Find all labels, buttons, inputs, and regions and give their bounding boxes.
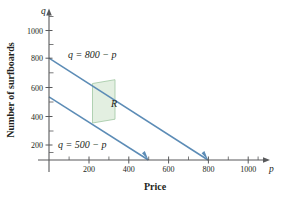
y-tick-label-800: 800	[31, 54, 43, 63]
y-axis-title: Number of surfboards	[5, 42, 16, 137]
y-tick-label-1000: 1000	[27, 27, 43, 36]
y-axis-arrow	[46, 9, 52, 16]
x-axis-variable-label: p	[268, 164, 274, 174]
y-tick-label-600: 600	[31, 84, 43, 93]
chart-figure: 1000 800 600 400 200 200 400 600 800 100…	[0, 0, 282, 197]
region-label-R: R	[110, 98, 117, 109]
annotation-lower-line-equation: q = 500 − p	[58, 139, 107, 150]
annotation-upper-line-equation: q = 800 − p	[68, 49, 117, 60]
y-axis-variable-label: q	[41, 6, 46, 16]
x-tick-label-200: 200	[83, 165, 95, 174]
x-axis-arrow	[263, 157, 270, 163]
surfboard-demand-chart: 1000 800 600 400 200 200 400 600 800 100…	[0, 0, 282, 197]
x-tick-label-600: 600	[163, 165, 175, 174]
y-tick-label-200: 200	[31, 141, 43, 150]
x-tick-label-1000: 1000	[240, 165, 256, 174]
x-axis-title: Price	[144, 181, 167, 192]
x-tick-label-800: 800	[202, 165, 214, 174]
y-tick-label-400: 400	[31, 113, 43, 122]
x-tick-label-400: 400	[123, 165, 135, 174]
